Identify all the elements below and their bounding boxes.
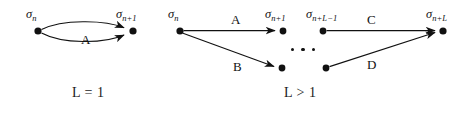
- sigma-subscript: n+L: [432, 13, 447, 23]
- node-lower-left-dot: [279, 65, 286, 72]
- node-lower-right-dot: [323, 65, 330, 72]
- edge-label-a-right: A: [231, 13, 240, 26]
- edge-label-d: D: [367, 58, 376, 71]
- node-sigma-n-plus-1-left-dot: [129, 27, 136, 34]
- node-sigma-n-plus-l-dot: [439, 27, 446, 34]
- sigma-subscript: n+1: [122, 13, 137, 23]
- state-label-sigma-n-plus-1-left: σn+1: [116, 8, 137, 21]
- state-label-sigma-n-right: σn: [168, 8, 179, 21]
- edge-a-upper-path: [42, 22, 125, 30]
- node-sigma-n-left-dot: [34, 27, 41, 34]
- state-label-sigma-n-plus-1-right: σn+1: [265, 8, 286, 21]
- sigma-subscript: n: [32, 13, 36, 23]
- caption-left: L = 1: [72, 86, 104, 100]
- sigma-subscript: n+1: [271, 13, 286, 23]
- node-sigma-n-right-dot: [176, 27, 183, 34]
- edge-label-c: C: [367, 13, 376, 26]
- ellipsis-dot: [301, 48, 304, 51]
- state-label-sigma-n-plus-l: σn+L: [426, 8, 447, 21]
- edge-d-path: [330, 33, 436, 67]
- figure-root: σn σn+1 A L = 1 σn σn+1 σn+L−1 σn+L A B …: [0, 0, 475, 116]
- edge-label-b: B: [233, 60, 242, 73]
- caption-right: L > 1: [284, 86, 316, 100]
- edge-b-path: [183, 33, 274, 66]
- node-sigma-n-plus-l-minus-1-dot: [320, 28, 327, 35]
- sigma-subscript: n+L−1: [312, 13, 337, 23]
- edge-label-a-left: A: [81, 33, 90, 46]
- sigma-subscript: n: [174, 13, 178, 23]
- state-label-sigma-n-plus-l-minus-1: σn+L−1: [306, 8, 337, 21]
- ellipsis-dot: [312, 48, 315, 51]
- ellipsis-dot: [291, 48, 294, 51]
- state-label-sigma-n-left: σn: [26, 8, 37, 21]
- node-sigma-n-plus-1-right-dot: [280, 28, 287, 35]
- ellipsis-icon: [291, 48, 315, 51]
